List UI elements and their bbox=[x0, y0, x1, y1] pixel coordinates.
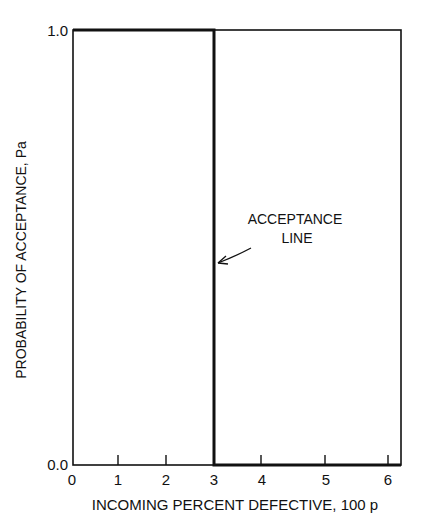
svg-text:6: 6 bbox=[384, 471, 392, 488]
annotation-line1: ACCEPTANCE bbox=[248, 211, 343, 227]
annotation-line2: LINE bbox=[281, 230, 312, 246]
svg-text:0: 0 bbox=[68, 471, 76, 488]
x-axis-label: INCOMING PERCENT DEFECTIVE, 100 p bbox=[92, 496, 378, 513]
svg-text:4: 4 bbox=[258, 471, 266, 488]
oc-chart: 1.0 0.0 0 1 2 3 4 5 6 INCOMING PERCENT D… bbox=[0, 0, 422, 524]
svg-text:2: 2 bbox=[162, 471, 170, 488]
svg-text:5: 5 bbox=[322, 471, 330, 488]
oc-curve bbox=[73, 30, 401, 465]
x-tick-labels: 0 1 2 3 4 5 6 bbox=[68, 471, 392, 488]
y-tick-top: 1.0 bbox=[47, 22, 68, 39]
svg-text:3: 3 bbox=[210, 471, 218, 488]
plot-frame bbox=[73, 30, 401, 465]
y-axis-label: PROBABILITY OF ACCEPTANCE, Pa bbox=[13, 141, 29, 379]
y-tick-bottom: 0.0 bbox=[47, 456, 68, 473]
annotation-arrow bbox=[218, 248, 251, 263]
svg-text:1: 1 bbox=[114, 471, 122, 488]
